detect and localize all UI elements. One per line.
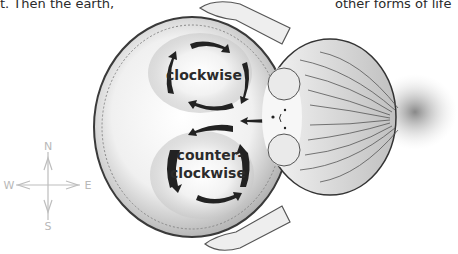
- globe-illustration: clockwise counter- clockwise: [0, 0, 458, 254]
- compass-rose: [16, 152, 80, 220]
- counter-label-line1: counter-: [177, 147, 244, 163]
- compass-south-label: S: [45, 220, 52, 233]
- globe: [94, 17, 290, 237]
- clockwise-label: clockwise: [166, 67, 242, 83]
- compass-east-label: E: [85, 179, 92, 192]
- girl-head: [262, 39, 457, 195]
- counter-label-line2: clockwise: [170, 165, 246, 181]
- compass-west-label: W: [4, 179, 15, 192]
- compass-north-label: N: [44, 140, 52, 153]
